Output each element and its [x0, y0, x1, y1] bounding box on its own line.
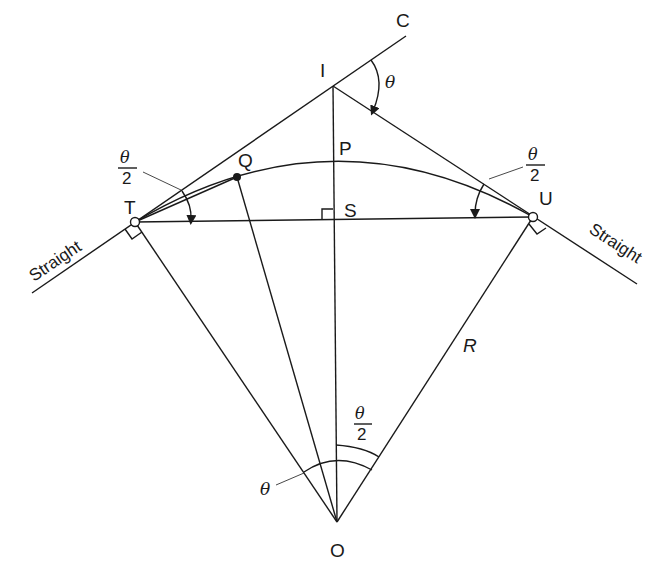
right-angle-marker-U [529, 224, 546, 234]
half-angle-U-denominator: 2 [530, 166, 539, 185]
half-angle-T-numerator: θ [120, 148, 130, 167]
point-T-label: T [124, 197, 136, 218]
point-Q-label: Q [238, 150, 253, 171]
straight-label-right: Straight [586, 219, 646, 267]
right-angle-marker-T [125, 229, 142, 239]
deflection-angle-arc [371, 60, 379, 111]
half-angle-T-denominator: 2 [122, 169, 131, 188]
point-T-marker [131, 218, 140, 227]
curve-geometry-diagram: θ θ 2 θ 2 θ 2 θ I C T U P Q S O R Straig… [0, 0, 664, 565]
right-angle-marker-S [322, 209, 333, 220]
point-O-label: O [330, 540, 345, 561]
point-U-label: U [539, 188, 553, 209]
point-Q-marker [233, 173, 241, 181]
tangent-line-left [32, 36, 406, 293]
centre-half-angle-denominator: 2 [357, 425, 366, 444]
tangent-line-right [333, 86, 637, 284]
line-IO [333, 86, 337, 522]
radius-QO [237, 177, 337, 522]
centre-half-angle-numerator: θ [355, 404, 365, 423]
chord-TQ [135, 177, 237, 222]
centre-angle-label: θ [260, 479, 270, 499]
radius-TO [135, 222, 337, 522]
point-P-label: P [339, 138, 352, 159]
radius-label: R [463, 335, 477, 356]
point-C-label: C [396, 10, 410, 31]
half-angle-arc-U [475, 184, 484, 214]
radius-UO [337, 217, 533, 522]
point-S-label: S [344, 200, 357, 221]
straight-label-left: Straight [26, 237, 85, 286]
half-angle-leader-U [489, 167, 523, 179]
centre-full-angle-arc [304, 460, 372, 472]
point-I-label: I [320, 60, 325, 81]
centre-half-angle-arc [336, 445, 379, 457]
centre-angle-leader [276, 473, 304, 485]
half-angle-U-numerator: θ [528, 145, 538, 164]
half-angle-leader-T [143, 172, 181, 190]
deflection-angle-label: θ [385, 72, 395, 92]
point-U-marker [529, 213, 538, 222]
